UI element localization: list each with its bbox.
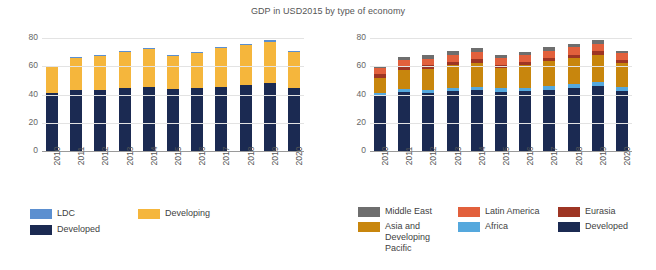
y-axis-tick-label: 0 <box>340 146 366 155</box>
bar-segment <box>70 58 82 90</box>
x-axis-tick-label: 2017 <box>215 154 227 198</box>
x-axis-labels-left: 2010201120122013201420152016201720182019… <box>42 154 304 198</box>
bar-segment <box>592 44 604 51</box>
x-axis-tick-label: 2011 <box>398 154 410 198</box>
gridline <box>370 38 632 39</box>
bar-segment <box>215 48 227 87</box>
plot-area-left: 020406080 <box>42 38 304 152</box>
legend-item[interactable]: Africa <box>458 221 558 254</box>
bar-segment <box>215 87 227 151</box>
bar-segment <box>264 83 276 151</box>
x-axis-tick-label: 2010 <box>374 154 386 198</box>
x-axis-tick-label: 2012 <box>422 154 434 198</box>
legend-left: LDCDevelopingDeveloped <box>30 208 330 235</box>
gridline <box>42 123 304 124</box>
legend-swatch-icon <box>30 209 52 219</box>
gridline <box>42 66 304 67</box>
y-axis-tick-label: 20 <box>340 118 366 127</box>
legend-item-label: Developed <box>57 224 100 235</box>
plot-area-right: 020406080 <box>370 38 632 152</box>
bar-segment <box>167 56 179 88</box>
x-axis-tick-label: 2010 <box>46 154 58 198</box>
y-axis-tick-label: 80 <box>340 33 366 42</box>
gridline <box>42 95 304 96</box>
y-axis-tick-label: 40 <box>340 90 366 99</box>
x-axis-tick-label: 2015 <box>167 154 179 198</box>
legend-swatch-icon <box>558 222 580 232</box>
x-axis-tick-label: 2014 <box>471 154 483 198</box>
x-axis-tick-label: 2018 <box>240 154 252 198</box>
x-axis-tick-label: 2019 <box>592 154 604 198</box>
legend-swatch-icon <box>358 222 380 232</box>
bar-segment <box>422 59 434 66</box>
bar-segment <box>240 45 252 85</box>
bar-segment <box>288 52 300 88</box>
bar-segment <box>264 42 276 84</box>
bar-segment <box>568 47 580 54</box>
legend-swatch-icon <box>558 207 580 217</box>
legend-item[interactable]: Latin America <box>458 206 558 217</box>
y-axis-tick-label: 80 <box>12 33 38 42</box>
y-axis-tick-label: 0 <box>12 146 38 155</box>
bar-segment <box>288 88 300 151</box>
legend-swatch-icon <box>458 207 480 217</box>
bar-segment <box>495 58 507 65</box>
legend-item[interactable]: Developed <box>30 224 138 235</box>
legend-item[interactable]: Asia and Developing Pacific <box>358 221 458 254</box>
gridline <box>42 38 304 39</box>
bar-segment <box>447 55 459 62</box>
x-axis-tick-label: 2014 <box>143 154 155 198</box>
x-axis-tick-label: 2020 <box>288 154 300 198</box>
legend-item-label: Developing <box>165 208 210 219</box>
legend-item[interactable]: LDC <box>30 208 138 219</box>
legend-item-label: Latin America <box>485 206 540 217</box>
x-axis-tick-label: 2016 <box>191 154 203 198</box>
x-axis-tick-label: 2015 <box>495 154 507 198</box>
bar-segment <box>119 52 131 88</box>
legend-swatch-icon <box>138 209 160 219</box>
bar-segment <box>519 55 531 62</box>
legend-left-grid: LDCDevelopingDeveloped <box>30 208 330 235</box>
chart-page: GDP in USD2015 by type of economy 020406… <box>0 0 656 270</box>
legend-item-label: Asia and Developing Pacific <box>385 221 458 254</box>
legend-item[interactable]: Developing <box>138 208 258 219</box>
bar-segment <box>167 89 179 151</box>
x-axis-labels-right: 2010201120122013201420152016201720182019… <box>370 154 632 198</box>
legend-right: Middle EastLatin AmericaEurasiaAsia and … <box>358 206 656 254</box>
bar-segment <box>398 92 410 151</box>
legend-item-label: Eurasia <box>585 206 616 217</box>
bar-segment <box>447 65 459 88</box>
bar-segment <box>143 87 155 151</box>
x-axis-tick-label: 2011 <box>70 154 82 198</box>
bar-segment <box>191 53 203 88</box>
x-axis-tick-label: 2018 <box>568 154 580 198</box>
bar-segment <box>143 49 155 87</box>
bar-segment <box>495 92 507 151</box>
x-axis-tick-label: 2019 <box>264 154 276 198</box>
legend-swatch-icon <box>458 222 480 232</box>
x-axis-tick-label: 2013 <box>119 154 131 198</box>
x-axis-tick-label: 2020 <box>616 154 628 198</box>
bar-segment <box>119 88 131 151</box>
x-axis-tick-label: 2013 <box>447 154 459 198</box>
bar-segment <box>374 78 386 94</box>
bar-segment <box>543 90 555 151</box>
bar-segment <box>447 91 459 151</box>
bar-segment <box>543 61 555 86</box>
x-axis-tick-label: 2012 <box>94 154 106 198</box>
x-axis-tick-label: 2017 <box>543 154 555 198</box>
chart-panel-left: 020406080 201020112012201320142015201620… <box>8 30 328 210</box>
bar-segment <box>616 53 628 60</box>
bar-segment <box>46 66 58 93</box>
legend-item-label: LDC <box>57 208 75 219</box>
bar-segment <box>422 69 434 90</box>
bar-segment <box>495 68 507 88</box>
legend-item[interactable]: Eurasia <box>558 206 656 217</box>
gridline <box>370 95 632 96</box>
chart-panel-right: 020406080 201020112012201320142015201620… <box>336 30 656 210</box>
legend-item[interactable]: Middle East <box>358 206 458 217</box>
x-axis-tick-label: 2016 <box>519 154 531 198</box>
legend-item[interactable]: Developed <box>558 221 656 254</box>
bar-segment <box>70 90 82 151</box>
y-axis-tick-label: 40 <box>12 90 38 99</box>
